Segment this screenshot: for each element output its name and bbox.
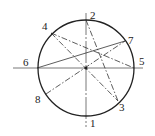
- point-label-3: 3: [119, 101, 125, 113]
- chord-2-3: [86, 20, 118, 101]
- chord-4-3: [51, 33, 118, 101]
- circle-chord-diagram: 12345678: [0, 0, 155, 136]
- point-label-2: 2: [90, 9, 96, 21]
- point-label-7: 7: [128, 34, 134, 46]
- point-label-4: 4: [42, 20, 48, 32]
- point-label-1: 1: [90, 117, 96, 129]
- chord-4-5: [51, 33, 134, 68]
- point-label-5: 5: [139, 55, 145, 67]
- point-labels: 12345678: [23, 9, 145, 129]
- point-label-8: 8: [35, 93, 41, 105]
- chords: [37, 20, 134, 101]
- center-point: [85, 67, 88, 70]
- point-label-6: 6: [23, 56, 29, 68]
